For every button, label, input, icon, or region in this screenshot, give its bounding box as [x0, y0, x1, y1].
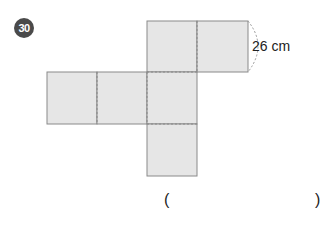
net-face — [147, 72, 197, 124]
answer-bracket-close: ) — [315, 191, 320, 209]
answer-bracket-open: ( — [164, 191, 169, 209]
net-face — [147, 21, 197, 72]
cube-net-figure — [0, 0, 326, 227]
net-face — [147, 124, 197, 176]
net-face — [97, 72, 147, 124]
net-face — [47, 72, 97, 124]
dimension-label: 26 cm — [252, 38, 290, 54]
net-face — [197, 21, 248, 72]
